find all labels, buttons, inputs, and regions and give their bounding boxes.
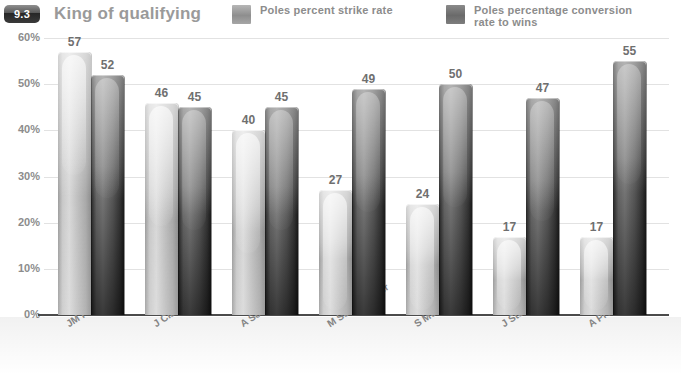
bar-poles-conversion-rate: 49 [352,89,385,315]
bar-gloss-highlight [269,110,293,230]
bar-group: 4645 [145,38,211,315]
legend-item-poles-conversion-rate: Poles percentage conversion rate to wins [446,4,632,28]
y-axis-tick-label: 20% [0,216,40,228]
bar-poles-conversion-rate: 55 [613,61,646,315]
bar-poles-conversion-rate: 45 [178,107,211,315]
bar-value-label: 46 [155,86,169,100]
plot-area: 5752464540452749245017471755 [44,38,669,315]
bar-poles-conversion-rate: 45 [265,107,298,315]
bar-value-label: 45 [188,90,202,104]
legend-label-poles-conversion-rate: Poles percentage conversion rate to wins [474,4,632,28]
bar-gloss-highlight [530,101,554,221]
bar-gloss-highlight [497,240,521,310]
chart-header: 9.3 King of qualifying Poles percent str… [0,0,681,34]
bar-value-label: 50 [449,67,463,81]
bar-value-label: 27 [329,173,343,187]
bar-poles-conversion-rate: 50 [439,84,472,315]
bar-group: 2749 [319,38,385,315]
bar-value-label: 52 [101,58,115,72]
bar-gloss-highlight [95,78,119,198]
bar-value-label: 47 [536,81,550,95]
y-axis: 0%10%20%30%40%50%60% [0,38,40,315]
legend-item-poles-strike-rate: Poles percent strike rate [232,4,393,24]
bar-gloss-highlight [182,110,206,230]
bar-poles-strike-rate: 57 [58,52,91,315]
bar-poles-conversion-rate: 52 [91,75,124,315]
bar-gloss-highlight [62,55,86,175]
bar-value-label: 17 [503,220,517,234]
bar-poles-strike-rate: 27 [319,190,352,315]
x-axis-category-labels: JM FangioJ ClarkA SennaM SchumacherS Mos… [44,316,669,392]
bar-poles-strike-rate: 17 [493,237,526,315]
bar-group: 4045 [232,38,298,315]
bar-value-label: 45 [275,90,289,104]
bar-poles-strike-rate: 40 [232,130,265,315]
bar-gloss-highlight [356,92,380,212]
bar-gloss-highlight [584,240,608,310]
bar-value-label: 40 [242,113,256,127]
rating-badge: 9.3 [4,5,40,23]
bar-value-label: 57 [68,35,82,49]
y-axis-tick-label: 30% [0,170,40,182]
y-axis-tick-label: 0% [0,308,40,320]
bar-group: 1755 [580,38,646,315]
bar-gloss-highlight [410,207,434,310]
bar-gloss-highlight [443,87,467,207]
bar-group: 5752 [58,38,124,315]
bar-gloss-highlight [617,64,641,184]
bar-gloss-highlight [323,193,347,310]
legend-swatch-light-icon [232,5,251,24]
bar-poles-conversion-rate: 47 [526,98,559,315]
bar-value-label: 24 [416,187,430,201]
legend-swatch-dark-icon [446,5,465,24]
bar-poles-strike-rate: 17 [580,237,613,315]
bar-value-label: 17 [590,220,604,234]
bar-series-container: 5752464540452749245017471755 [44,38,669,315]
bar-group: 2450 [406,38,472,315]
y-axis-tick-label: 60% [0,31,40,43]
chart-title: King of qualifying [54,4,201,24]
bar-poles-strike-rate: 46 [145,103,178,315]
bar-poles-strike-rate: 24 [406,204,439,315]
bar-gloss-highlight [236,133,260,253]
y-axis-tick-label: 40% [0,123,40,135]
bar-group: 1747 [493,38,559,315]
bar-gloss-highlight [149,106,173,226]
bar-value-label: 55 [623,44,637,58]
y-axis-tick-label: 10% [0,262,40,274]
chart-container: 9.3 King of qualifying Poles percent str… [0,0,681,392]
bar-value-label: 49 [362,72,376,86]
y-axis-tick-label: 50% [0,77,40,89]
legend-label-poles-strike-rate: Poles percent strike rate [260,4,393,16]
